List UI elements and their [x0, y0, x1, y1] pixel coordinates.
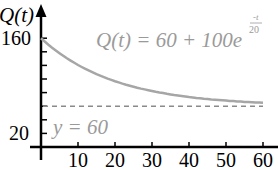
x-tick-label: 40	[179, 149, 199, 170]
asymptote-label: y = 60	[51, 115, 108, 139]
y-axis-arrow-icon	[36, 4, 47, 17]
x-tick-label: 10	[68, 149, 88, 170]
equation-exponent-numerator: -t	[253, 12, 259, 22]
equation-exponent-denominator: 20	[249, 24, 259, 35]
y-axis-title: Q(t)	[0, 3, 34, 27]
x-tick-label: 20	[105, 149, 125, 170]
y-tick-label-160: 160	[1, 27, 31, 49]
x-tick-label: 50	[216, 149, 236, 170]
exponential-decay-chart: Q(t) 160 20 Q(t) = 60 + 100e -t 20 y = 6…	[0, 0, 278, 170]
x-tick-label: 30	[142, 149, 162, 170]
x-tick-labels: 102030405060	[68, 149, 273, 170]
y-tick-label-20: 20	[9, 122, 29, 144]
equation-label: Q(t) = 60 + 100e	[96, 28, 242, 52]
x-tick-label: 60	[253, 149, 273, 170]
